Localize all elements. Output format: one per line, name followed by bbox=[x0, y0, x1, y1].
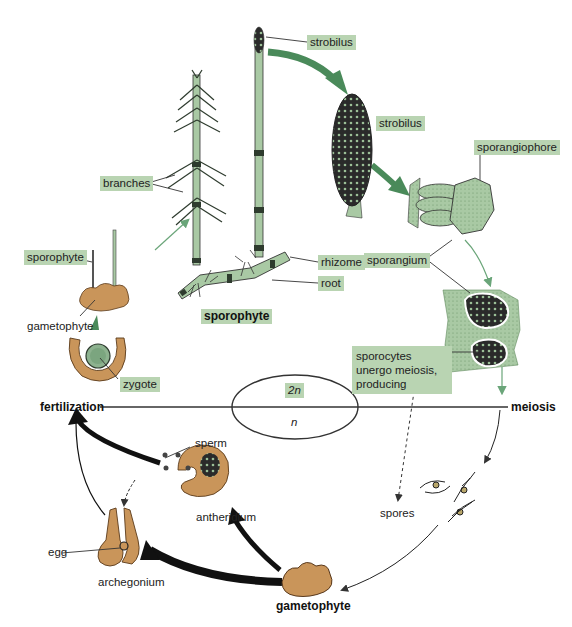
label-antheridium: antheridium bbox=[196, 511, 256, 524]
label-rhizome: rhizome bbox=[318, 255, 365, 270]
label-young-sporophyte: sporophyte bbox=[24, 250, 87, 265]
archegonium-illustration bbox=[98, 508, 139, 566]
label-sperm: sperm bbox=[195, 437, 227, 450]
label-ploidy-2n: 2n bbox=[285, 383, 304, 398]
label-strobilus-cone: strobilus bbox=[376, 116, 425, 131]
label-sporangium: sporangium bbox=[364, 253, 430, 268]
antheridium-illustration bbox=[163, 445, 229, 497]
label-sporocytes-note: sporocytes unergo meiosis, producing bbox=[352, 346, 452, 394]
branched-sporophyte-illustration bbox=[166, 70, 226, 265]
label-sporangiophore: sporangiophore bbox=[474, 140, 560, 155]
label-meiosis: meiosis bbox=[511, 401, 556, 414]
label-gametophyte-small: gametophyte bbox=[27, 320, 94, 333]
spores-illustration bbox=[420, 472, 475, 522]
label-archegonium: archegonium bbox=[98, 576, 164, 589]
label-gametophyte-caption: gametophyte bbox=[276, 600, 351, 613]
label-spores: spores bbox=[380, 507, 415, 520]
label-branches: branches bbox=[100, 176, 153, 191]
label-ploidy-n: n bbox=[291, 416, 297, 429]
label-zygote: zygote bbox=[120, 377, 160, 392]
strobilus-cone-illustration bbox=[332, 94, 372, 218]
life-cycle-diagram bbox=[0, 0, 572, 627]
young-sporophyte-illustration bbox=[80, 230, 129, 311]
spores-dashed-arrow bbox=[398, 385, 415, 500]
label-root: root bbox=[318, 276, 344, 291]
label-strobilus-top: strobilus bbox=[307, 35, 356, 50]
label-egg: egg bbox=[48, 546, 67, 559]
label-fertilization: fertilization bbox=[40, 401, 104, 414]
fertile-stalk-illustration bbox=[254, 27, 264, 257]
sporangium-section-illustration bbox=[443, 290, 520, 372]
sporangiophore-illustration bbox=[408, 178, 494, 234]
gametophyte-illustration bbox=[282, 562, 332, 596]
label-sporophyte-caption: sporophyte bbox=[201, 309, 272, 324]
